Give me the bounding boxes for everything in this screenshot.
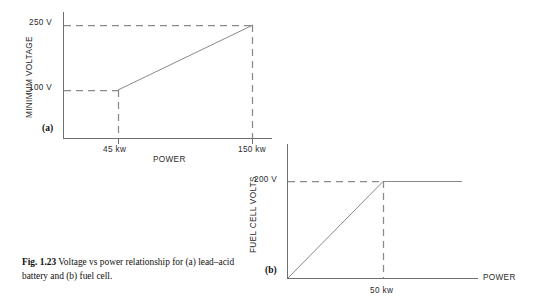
panel-a-ytick-label-250v: 250 V (29, 19, 52, 27)
panel-a-ytick-label-100v: 100 V (29, 84, 52, 92)
figure-caption: Fig. 1.23 Voltage vs power relationship … (22, 256, 240, 283)
figure-caption-label: Fig. 1.23 (22, 257, 56, 267)
panel-b-graphics (288, 144, 479, 279)
panel-a-y-axis-label: MINIMUM VOLTAGE (26, 36, 34, 118)
panel-a-tag: (a) (42, 124, 53, 134)
panel-b-xtick-label-50kw: 50 kw (370, 287, 393, 295)
panel-b-data-line (288, 182, 462, 279)
panel-b-tag: (b) (265, 266, 277, 276)
panel-b-x-axis-label: POWER (483, 274, 516, 282)
panel-b-y-axis-label: FUEL CELL VOLTS (250, 176, 258, 253)
panel-a-graphics (64, 12, 273, 144)
panel-b-ytick-label-200v: 200 V (254, 176, 277, 184)
panel-a-xtick-label-45kw: 45 kw (103, 146, 126, 154)
panel-a-data-line (118, 25, 253, 90)
panel-a-x-axis-label: POWER (153, 156, 186, 164)
panel-a-xtick-label-150kw: 150 kw (238, 146, 266, 154)
figure-container: MINIMUM VOLTAGE 250 V 100 V 45 kw 150 kw… (0, 0, 534, 303)
